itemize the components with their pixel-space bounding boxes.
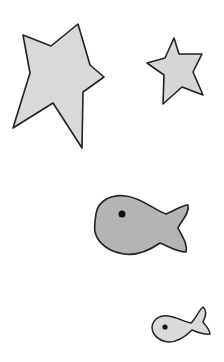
large-star-shape	[13, 24, 104, 148]
small-star-shape	[147, 38, 203, 104]
shapes-canvas	[0, 0, 224, 362]
large-fish-eye	[119, 211, 126, 218]
small-fish-eye	[162, 324, 167, 329]
small-fish-shape	[152, 307, 210, 342]
large-fish-shape	[95, 196, 189, 255]
